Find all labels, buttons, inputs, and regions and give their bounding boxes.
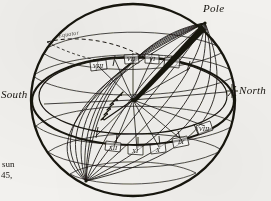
north-pole-node: [203, 21, 206, 24]
svg-text:XI: XI: [131, 147, 139, 154]
svg-text:XII: XII: [108, 144, 118, 151]
armillary-sphere-engraving: VIII VII VI V XII XI X IX VIII: [0, 0, 271, 201]
caption-line-2: 45,: [1, 170, 12, 181]
south-pole-node: [84, 179, 87, 182]
label-north: North: [239, 84, 266, 96]
sphere-centre-node: [131, 98, 135, 102]
svg-text:VIII: VIII: [93, 62, 104, 69]
figure-canvas: VIII VII VI V XII XI X IX VIII: [0, 0, 271, 201]
label-pole: Pole: [203, 2, 224, 14]
svg-text:VII: VII: [127, 55, 136, 62]
svg-text:VI: VI: [149, 55, 156, 62]
caption-line-1: sun: [2, 159, 15, 170]
label-south: South: [1, 88, 28, 100]
